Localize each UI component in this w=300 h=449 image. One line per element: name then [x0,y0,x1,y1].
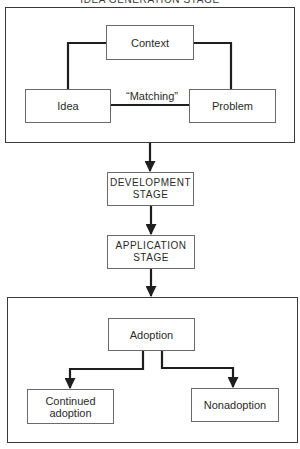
continued-adoption-line2: adoption [49,407,91,419]
application-stage-node: APPLICATION STAGE [107,235,195,269]
problem-label: Problem [212,100,253,112]
context-node: Context [106,25,194,60]
nonadoption-label: Nonadoption [204,399,266,411]
adoption-label: Adoption [130,329,173,341]
development-stage-node: DEVELOPMENT STAGE [107,172,194,206]
nonadoption-node: Nonadoption [191,388,279,422]
continued-adoption-line1: Continued [45,395,95,407]
context-problem-link [193,43,231,89]
problem-node: Problem [189,89,276,123]
application-stage-line1: APPLICATION [116,240,187,252]
arrow-to-continued-adoption [70,351,143,388]
idea-node: Idea [25,89,111,123]
connector-lines [0,0,300,449]
application-stage-line2: STAGE [133,252,169,264]
development-stage-line2: STAGE [133,189,169,201]
continued-adoption-node: Continued adoption [27,389,114,424]
adoption-node: Adoption [108,318,195,351]
matching-label: “Matching” [122,90,182,102]
context-idea-link [68,43,106,89]
idea-label: Idea [57,100,78,112]
development-stage-line1: DEVELOPMENT [110,177,191,189]
arrow-to-nonadoption [162,351,233,387]
context-label: Context [131,37,169,49]
